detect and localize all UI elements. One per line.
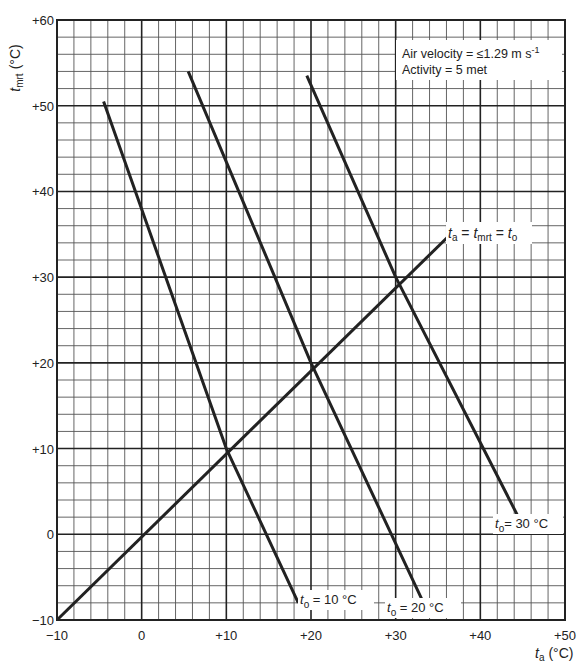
y-tick-label: 0 bbox=[47, 527, 54, 542]
x-tick-label: 0 bbox=[138, 628, 145, 643]
x-tick-label: +30 bbox=[385, 628, 407, 643]
x-tick-label: +10 bbox=[215, 628, 237, 643]
x-tick-label: −10 bbox=[46, 628, 68, 643]
y-tick-label: +60 bbox=[32, 13, 54, 28]
psychrometric-chart: −100+10+20+30+40+50 −100+10+20+30+40+50+… bbox=[0, 0, 587, 667]
y-axis-title: tmrt(°C) bbox=[7, 44, 25, 91]
y-tick-label: +30 bbox=[32, 270, 54, 285]
y-tick-label: +20 bbox=[32, 356, 54, 371]
note-air-velocity: Air velocity = ≤1.29 m s-1 bbox=[402, 45, 540, 61]
x-tick-label: +50 bbox=[554, 628, 576, 643]
y-tick-label: +40 bbox=[32, 184, 54, 199]
x-axis-ticks: −100+10+20+30+40+50 bbox=[46, 628, 576, 643]
series-line bbox=[104, 101, 299, 603]
note-activity: Activity = 5 met bbox=[402, 63, 488, 77]
grid-major bbox=[57, 20, 565, 620]
y-tick-label: +50 bbox=[32, 99, 54, 114]
x-tick-label: +40 bbox=[469, 628, 491, 643]
x-axis-title: ta(°C) bbox=[535, 645, 574, 663]
y-tick-label: −10 bbox=[32, 613, 54, 628]
y-tick-label: +10 bbox=[32, 442, 54, 457]
x-tick-label: +20 bbox=[300, 628, 322, 643]
y-axis-ticks: −100+10+20+30+40+50+60 bbox=[32, 13, 54, 628]
